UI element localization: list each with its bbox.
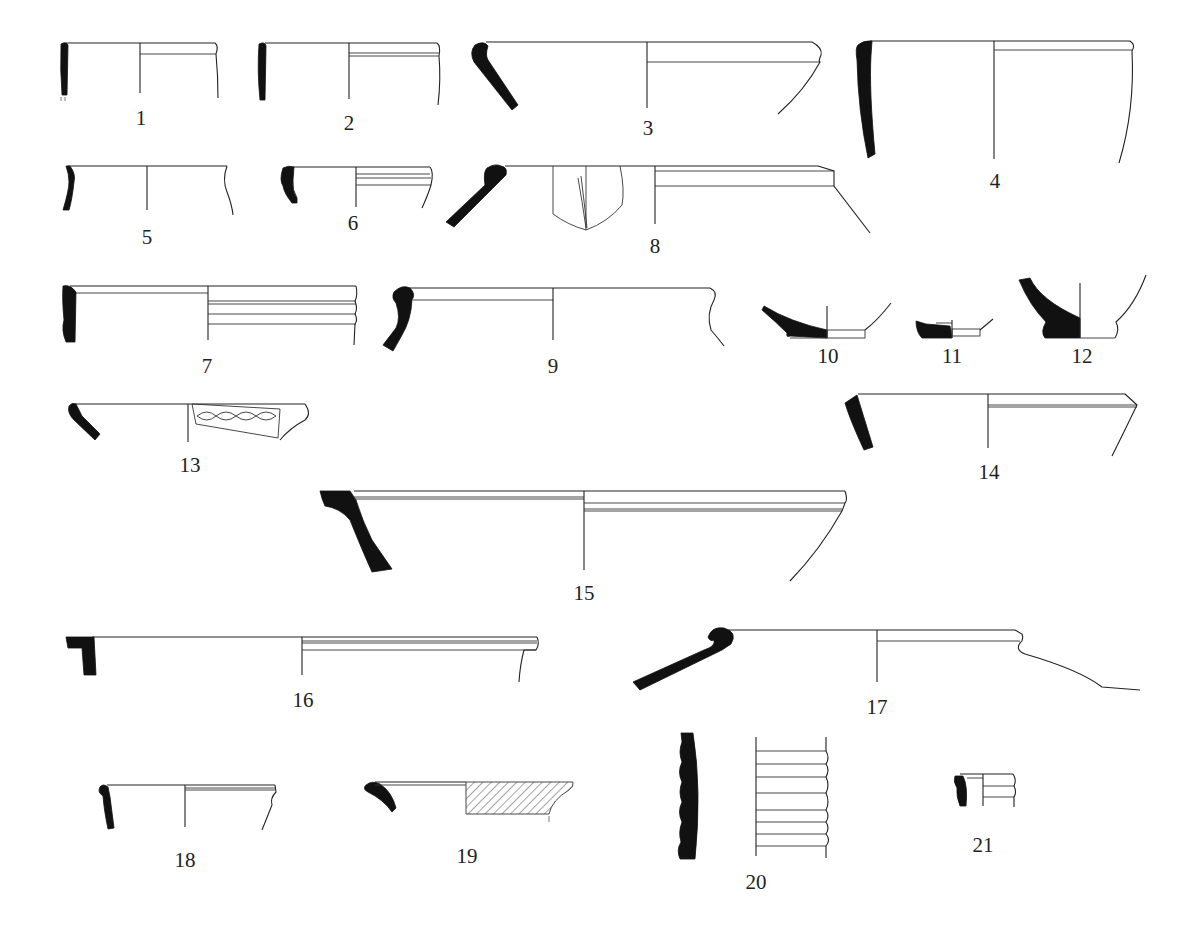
figure-14-drawing <box>845 394 1137 456</box>
figure-label-21: 21 <box>973 835 994 856</box>
figure-label-13: 13 <box>180 455 201 476</box>
figure-16-drawing <box>66 637 538 682</box>
figure-9-drawing <box>383 287 724 351</box>
figure-label-20: 20 <box>746 872 767 893</box>
figure-12-drawing <box>1019 275 1146 338</box>
figure-17-drawing <box>633 628 1140 690</box>
figure-label-15: 15 <box>574 583 595 604</box>
figure-label-1: 1 <box>136 108 147 129</box>
figure-15-drawing <box>320 491 847 581</box>
figure-3-drawing <box>472 42 822 114</box>
figure-label-7: 7 <box>202 356 213 377</box>
figure-label-9: 9 <box>548 356 559 377</box>
figure-label-5: 5 <box>142 227 153 248</box>
figure-11-drawing <box>916 319 993 338</box>
figure-label-8: 8 <box>650 236 661 257</box>
figure-21-drawing <box>954 774 1015 807</box>
figure-label-2: 2 <box>344 113 355 134</box>
figure-10-drawing <box>762 303 891 338</box>
figure-label-3: 3 <box>643 118 654 139</box>
figure-label-12: 12 <box>1072 346 1093 367</box>
figure-label-16: 16 <box>293 690 314 711</box>
figure-label-10: 10 <box>818 346 839 367</box>
figure-20-drawing <box>678 733 828 859</box>
figure-19-drawing <box>364 782 573 822</box>
figure-7-drawing <box>63 286 357 345</box>
figure-8-drawing <box>446 165 870 233</box>
figure-label-6: 6 <box>348 213 359 234</box>
figure-1-drawing <box>61 43 218 101</box>
pottery-plate: 1 2 3 4 5 6 8 7 9 10 11 12 13 14 15 16 1… <box>0 0 1204 939</box>
figure-5-drawing <box>63 166 233 215</box>
figure-18-drawing <box>99 785 276 830</box>
figure-13-drawing <box>69 403 309 442</box>
figure-label-19: 19 <box>457 846 478 867</box>
figure-label-18: 18 <box>175 850 196 871</box>
figure-4-drawing <box>856 41 1133 163</box>
figure-label-14: 14 <box>979 462 1000 483</box>
figure-label-11: 11 <box>942 346 962 367</box>
figure-6-drawing <box>281 166 432 208</box>
figure-label-4: 4 <box>990 171 1001 192</box>
figure-label-17: 17 <box>867 697 888 718</box>
figure-2-drawing <box>258 43 440 105</box>
